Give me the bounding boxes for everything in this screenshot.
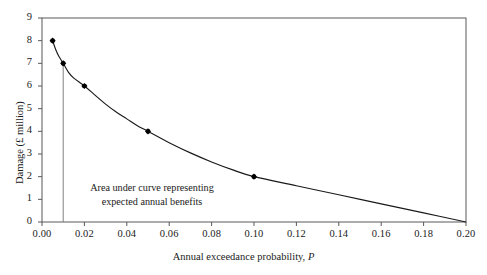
x-axis-title-text: Annual exceedance probability, <box>173 251 306 262</box>
x-tick-label: 0.04 <box>107 228 147 239</box>
data-point-marker-core <box>51 39 55 43</box>
data-point-markers <box>50 38 258 180</box>
x-tick-label: 0.02 <box>64 228 104 239</box>
y-tick-label: 1 <box>16 192 32 203</box>
x-tick-label: 0.20 <box>446 228 486 239</box>
x-axis-title-variable: P <box>308 251 314 262</box>
annotation-line-2: expected annual benefits <box>63 195 241 209</box>
x-tick-label: 0.10 <box>234 228 274 239</box>
y-tick-label: 7 <box>16 56 32 67</box>
data-point-marker-core <box>61 61 65 65</box>
y-tick-label: 9 <box>16 11 32 22</box>
x-axis-title: Annual exceedance probability, P <box>0 251 487 262</box>
area-annotation: Area under curve representing expected a… <box>63 181 241 208</box>
data-point-marker-core <box>146 129 150 133</box>
y-tick-label: 6 <box>16 79 32 90</box>
y-tick-label: 8 <box>16 34 32 45</box>
annotation-line-1: Area under curve representing <box>63 181 241 195</box>
y-tick-label: 0 <box>16 215 32 226</box>
x-tick-label: 0.18 <box>404 228 444 239</box>
x-tick-label: 0.06 <box>149 228 189 239</box>
x-tick-marks <box>42 222 466 226</box>
y-axis-title: Damage (£ million) <box>14 101 25 184</box>
x-tick-label: 0.08 <box>192 228 232 239</box>
x-tick-label: 0.14 <box>319 228 359 239</box>
x-tick-label: 0.00 <box>22 228 62 239</box>
data-point-marker-core <box>83 84 87 88</box>
y-tick-marks <box>38 18 42 222</box>
chart-figure: 0123456789 0.000.020.040.060.080.100.120… <box>0 0 487 275</box>
x-tick-label: 0.12 <box>276 228 316 239</box>
x-tick-label: 0.16 <box>361 228 401 239</box>
data-point-marker-core <box>252 175 256 179</box>
